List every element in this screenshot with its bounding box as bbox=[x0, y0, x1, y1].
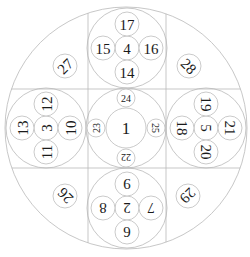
satellite-number: 15 bbox=[91, 36, 115, 60]
satellite-number-label: 20 bbox=[198, 145, 214, 160]
satellite-number-label: 21 bbox=[222, 121, 238, 136]
satellite-number: 7 bbox=[139, 196, 163, 220]
group-center-number-label: 4 bbox=[123, 41, 131, 57]
satellite-number-label: 8 bbox=[99, 200, 107, 216]
satellite-number: 16 bbox=[139, 36, 163, 60]
corner-number-bottom-right: 29 bbox=[176, 184, 200, 208]
satellite-number-label: 10 bbox=[63, 121, 79, 136]
group-center-number-label: 5 bbox=[198, 124, 214, 132]
group-top: 417161415 bbox=[87, 8, 167, 88]
satellite-number-label: 23 bbox=[91, 123, 102, 133]
corner-number-top-left: 27 bbox=[53, 54, 77, 78]
satellite-number: 8 bbox=[91, 196, 115, 220]
satellite-number: 20 bbox=[194, 140, 218, 164]
satellite-number: 23 bbox=[87, 119, 105, 137]
satellite-number-label: 7 bbox=[147, 200, 155, 216]
satellite-number: 17 bbox=[115, 12, 139, 36]
satellite-number-label: 14 bbox=[120, 65, 136, 81]
satellite-number: 13 bbox=[10, 116, 34, 140]
satellite-number-label: 15 bbox=[96, 41, 111, 57]
group-center-number-label: 3 bbox=[39, 124, 55, 132]
group-center: 124252223 bbox=[86, 88, 166, 168]
satellite-number-label: 18 bbox=[174, 121, 190, 136]
satellite-number: 11 bbox=[34, 140, 58, 164]
group-center-number: 3 bbox=[34, 116, 58, 140]
group-center-number-label: 2 bbox=[123, 200, 131, 216]
satellite-number: 25 bbox=[147, 119, 165, 137]
satellite-number-label: 12 bbox=[39, 97, 55, 112]
group-bottom: 29768 bbox=[87, 168, 167, 248]
group-center-number: 4 bbox=[115, 36, 139, 60]
group-center-number: 5 bbox=[194, 116, 218, 140]
satellite-number-label: 22 bbox=[121, 152, 131, 163]
group-center-number-label: 1 bbox=[122, 119, 131, 138]
satellite-number: 18 bbox=[170, 116, 194, 140]
satellite-number-label: 17 bbox=[120, 17, 136, 33]
corner-number-bottom-left: 26 bbox=[53, 184, 77, 208]
satellite-number: 12 bbox=[34, 92, 58, 116]
magic-circle-diagram: 1242522234171614153121011135192120182976… bbox=[0, 0, 250, 257]
satellite-number-label: 13 bbox=[15, 121, 31, 136]
satellite-number: 6 bbox=[115, 220, 139, 244]
satellite-number-label: 9 bbox=[123, 176, 131, 192]
satellite-number: 19 bbox=[194, 92, 218, 116]
group-right: 519212018 bbox=[166, 88, 246, 168]
satellite-number-label: 6 bbox=[123, 224, 131, 240]
group-center-number: 1 bbox=[106, 108, 146, 148]
satellite-number: 24 bbox=[117, 89, 135, 107]
corner-number-top-right: 28 bbox=[177, 54, 201, 78]
satellite-number-label: 19 bbox=[198, 97, 214, 112]
satellite-number-label: 24 bbox=[121, 93, 131, 104]
satellite-number-label: 11 bbox=[39, 145, 55, 159]
satellite-number: 22 bbox=[117, 149, 135, 167]
satellite-number: 9 bbox=[115, 172, 139, 196]
satellite-number-label: 16 bbox=[144, 41, 160, 57]
circle-groups: 1242522234171614153121011135192120182976… bbox=[6, 8, 246, 248]
satellite-number: 14 bbox=[115, 60, 139, 84]
group-left: 312101113 bbox=[6, 88, 86, 168]
satellite-number-label: 25 bbox=[150, 123, 161, 133]
satellite-number: 10 bbox=[58, 116, 82, 140]
satellite-number: 21 bbox=[218, 116, 242, 140]
group-center-number: 2 bbox=[115, 196, 139, 220]
